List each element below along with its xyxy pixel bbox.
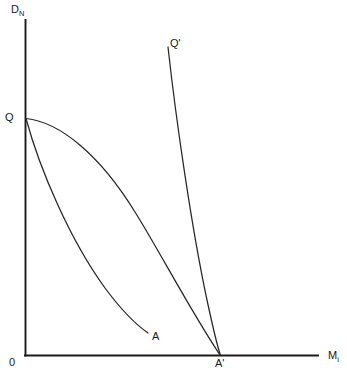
x-axis-label-subscript: i xyxy=(337,355,339,364)
chart-figure: DN Mi 0 Q Q' A A' xyxy=(0,0,347,375)
y-axis-label-text: D xyxy=(11,3,19,15)
curve-q-to-aprime xyxy=(26,119,220,356)
point-label-a-prime: A' xyxy=(215,358,224,369)
point-label-q-prime: Q' xyxy=(170,38,181,49)
origin-label: 0 xyxy=(9,357,15,368)
x-axis-label: Mi xyxy=(328,350,339,364)
y-axis-label: DN xyxy=(11,4,24,18)
chart-canvas xyxy=(0,0,347,375)
x-axis-label-text: M xyxy=(328,349,337,361)
curve-qprime-to-aprime xyxy=(168,47,221,356)
y-axis-label-subscript: N xyxy=(19,9,24,18)
point-label-a: A xyxy=(152,331,159,342)
point-label-q: Q xyxy=(5,112,14,123)
